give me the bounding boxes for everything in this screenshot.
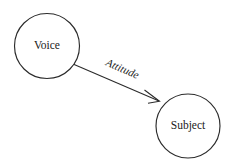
node-voice[interactable]: Voice [15, 14, 80, 79]
edge-voice-to-subject: Attitude [73, 55, 160, 103]
edge-label-attitude: Attitude [103, 55, 141, 81]
node-subject-label: Subject [171, 119, 206, 132]
arrowhead-icon [145, 90, 160, 103]
diagram-svg: Attitude Voice Subject [0, 0, 231, 164]
node-subject[interactable]: Subject [156, 94, 220, 158]
node-voice-label: Voice [34, 39, 60, 51]
diagram-canvas: Attitude Voice Subject [0, 0, 231, 164]
